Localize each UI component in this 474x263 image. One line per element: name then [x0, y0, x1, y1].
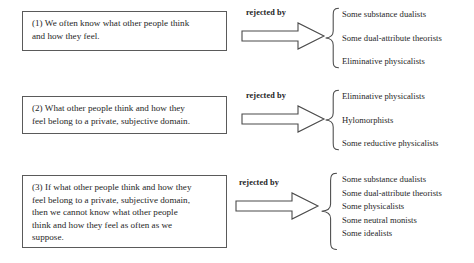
list-item: Some idealists — [342, 228, 442, 238]
premise-line: and how they feel. — [32, 30, 218, 43]
premise-box-3: (3) If what other people think and how t… — [22, 175, 227, 248]
list-item: Some dual-attribute theorists — [342, 188, 442, 198]
brace-icon — [324, 89, 340, 151]
premise-line: feel belong to a private, subjective dom… — [32, 194, 218, 207]
premise-line: (3) If what other people think and how t… — [32, 181, 218, 194]
premise-box-1: (1) We often know what other people thin… — [22, 11, 227, 51]
list-item: Some substance dualists — [342, 174, 442, 184]
premise-line: think and how they feel as often as we — [32, 219, 218, 232]
brace-icon — [320, 172, 338, 251]
premise-box-2: (2) What other people think and how they… — [22, 96, 227, 134]
relation-label-3: rejected by — [239, 178, 279, 187]
premise-line: suppose. — [32, 231, 218, 244]
premise-line: then we cannot know what other people — [32, 206, 218, 219]
premise-line: (2) What other people think and how they — [32, 102, 218, 115]
rejector-list-1: Some substance dualists Some dual-attrib… — [342, 9, 442, 66]
rejector-list-3: Some substance dualists Some dual-attrib… — [342, 174, 442, 238]
premise-line: (1) We often know what other people thin… — [32, 17, 218, 30]
brace-icon — [324, 7, 340, 69]
rejector-list-2: Eliminative physicalists Hylomorphists S… — [342, 91, 439, 148]
relation-label-1: rejected by — [246, 8, 286, 17]
list-item: Some dual-attribute theorists — [342, 33, 442, 43]
list-item: Some neutral monists — [342, 215, 442, 225]
arrow-icon — [234, 191, 320, 221]
arrow-icon — [240, 21, 326, 51]
relation-label-2: rejected by — [246, 91, 286, 100]
premise-line: feel belong to a private, subjective dom… — [32, 115, 218, 128]
list-item: Eliminative physicalists — [342, 56, 442, 66]
list-item: Some substance dualists — [342, 9, 442, 19]
list-item: Hylomorphists — [342, 115, 439, 125]
list-item: Eliminative physicalists — [342, 91, 439, 101]
list-item: Some reductive physicalists — [342, 138, 439, 148]
argument-diagram: (1) We often know what other people thin… — [0, 0, 474, 263]
arrow-icon — [240, 104, 326, 134]
list-item: Some physicalists — [342, 201, 442, 211]
